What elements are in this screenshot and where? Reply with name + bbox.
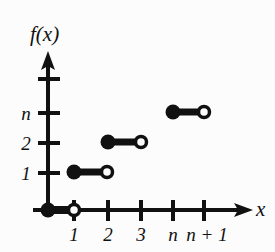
x-tick-label-3: 3 [136, 225, 146, 244]
open-endpoint-1 [102, 167, 113, 178]
closed-endpoint-1 [67, 165, 82, 180]
closed-endpoint-0 [41, 203, 56, 218]
open-endpoint-n [199, 107, 210, 118]
y-tick-label-1: 1 [21, 164, 31, 183]
x-tick-label-n-plus-1: n + 1 [186, 225, 227, 244]
open-endpoint-2 [136, 137, 147, 148]
x-tick-label-1: 1 [69, 225, 79, 244]
closed-endpoint-n [166, 105, 181, 120]
x-tick-label-n: n [168, 225, 178, 244]
step-function-figure: f(x) x 1 2 n 1 2 3 n n + 1 [0, 0, 275, 252]
y-axis-label: f(x) [30, 24, 59, 45]
x-axis-label: x [256, 199, 265, 220]
closed-endpoint-2 [101, 135, 116, 150]
x-tick-label-2: 2 [103, 225, 113, 244]
y-tick-label-n: n [21, 104, 31, 123]
y-tick-label-2: 2 [21, 134, 31, 153]
open-endpoint-0 [69, 205, 80, 216]
